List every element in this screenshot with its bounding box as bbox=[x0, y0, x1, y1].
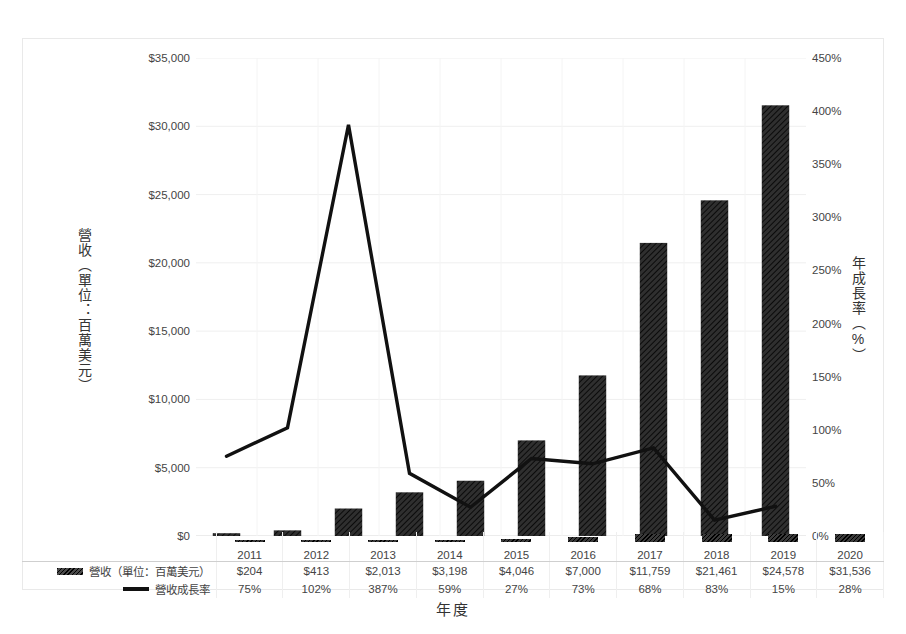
left-axis-ticks: $0$5,000$10,000$15,000$20,000$25,000$30,… bbox=[118, 58, 190, 536]
right-tick-4: 200% bbox=[812, 318, 841, 330]
bar-swatch-icon bbox=[501, 539, 531, 542]
bar-swatch-icon bbox=[435, 540, 465, 542]
bar-2014 bbox=[396, 492, 423, 536]
bar-swatch-icon bbox=[702, 534, 732, 542]
bar-swatch-icon bbox=[57, 568, 83, 575]
table-growth-2015: 27% bbox=[483, 580, 550, 598]
table-swatch-2011 bbox=[216, 532, 283, 544]
table-year-2018: 2018 bbox=[683, 544, 750, 562]
data-table: 2011201220132014201520162017201820192020… bbox=[22, 532, 884, 598]
table-row-swatches bbox=[22, 532, 884, 544]
table-row-revenue: 營收（單位：百萬美元） $204$413$2,013$3,198$4,046$7… bbox=[22, 562, 884, 581]
x-axis-title: 年度 bbox=[0, 598, 906, 619]
table-swatch-2015 bbox=[483, 532, 550, 544]
table-revenue-2012: $413 bbox=[283, 562, 350, 581]
table-revenue-2019: $24,578 bbox=[750, 562, 817, 581]
bar-2020 bbox=[762, 105, 789, 536]
plot-svg bbox=[196, 58, 806, 536]
table-swatch-2013 bbox=[350, 532, 417, 544]
table-year-2012: 2012 bbox=[283, 544, 350, 562]
table-revenue-2016: $7,000 bbox=[550, 562, 617, 581]
bar-swatch-icon bbox=[768, 534, 798, 542]
table-swatch-2016 bbox=[550, 532, 617, 544]
bar-swatch-icon bbox=[568, 537, 598, 542]
legend-revenue-label: 營收（單位：百萬美元） bbox=[89, 566, 210, 578]
line-swatch-icon bbox=[123, 587, 149, 591]
table-year-2016: 2016 bbox=[550, 544, 617, 562]
legend-growth: 營收成長率 bbox=[22, 580, 216, 598]
table-revenue-2011: $204 bbox=[216, 562, 283, 581]
right-tick-8: 400% bbox=[812, 105, 841, 117]
right-tick-9: 450% bbox=[812, 52, 841, 64]
table-swatch-2018 bbox=[683, 532, 750, 544]
bar-2019 bbox=[701, 200, 728, 536]
table-growth-2014: 59% bbox=[416, 580, 483, 598]
left-tick-4: $20,000 bbox=[148, 257, 190, 269]
table-year-2015: 2015 bbox=[483, 544, 550, 562]
left-tick-5: $25,000 bbox=[148, 189, 190, 201]
table-swatch-2014 bbox=[416, 532, 483, 544]
left-tick-7: $35,000 bbox=[148, 52, 190, 64]
left-axis-title: 營收（單位：百萬美元） bbox=[74, 228, 94, 393]
bar-2018 bbox=[640, 243, 667, 536]
bar-swatch-icon bbox=[368, 540, 398, 542]
bar-swatch-icon bbox=[835, 534, 865, 542]
bar-swatch-icon bbox=[635, 534, 665, 542]
table-year-2020: 2020 bbox=[817, 544, 884, 562]
right-axis-ticks: 0%50%100%150%200%250%300%350%400%450% bbox=[812, 58, 882, 536]
table-growth-2012: 102% bbox=[283, 580, 350, 598]
table-growth-2016: 73% bbox=[550, 580, 617, 598]
table-year-2019: 2019 bbox=[750, 544, 817, 562]
table-revenue-2018: $21,461 bbox=[683, 562, 750, 581]
bar-2017 bbox=[579, 375, 606, 536]
left-tick-2: $10,000 bbox=[148, 393, 190, 405]
table-revenue-2014: $3,198 bbox=[416, 562, 483, 581]
table-row-years: 2011201220132014201520162017201820192020 bbox=[22, 544, 884, 562]
table-year-2014: 2014 bbox=[416, 544, 483, 562]
table-row-growth: 營收成長率 75%102%387%59%27%73%68%83%15%28% bbox=[22, 580, 884, 598]
right-tick-6: 300% bbox=[812, 211, 841, 223]
table-revenue-2013: $2,013 bbox=[350, 562, 417, 581]
right-tick-2: 100% bbox=[812, 424, 841, 436]
legend-revenue: 營收（單位：百萬美元） bbox=[22, 562, 216, 581]
table-revenue-2017: $11,759 bbox=[617, 562, 684, 581]
chart-container: 圖 台積電歷年營收與年成長率 營收（單位：百萬美元） 年成長率（%） $0$5,… bbox=[0, 0, 906, 634]
table-growth-2017: 68% bbox=[617, 580, 684, 598]
table-growth-2019: 15% bbox=[750, 580, 817, 598]
table-revenue-2015: $4,046 bbox=[483, 562, 550, 581]
table-growth-2013: 387% bbox=[350, 580, 417, 598]
table-swatch-2017 bbox=[617, 532, 684, 544]
right-tick-7: 350% bbox=[812, 158, 841, 170]
table-year-2017: 2017 bbox=[617, 544, 684, 562]
left-tick-3: $15,000 bbox=[148, 325, 190, 337]
left-tick-6: $30,000 bbox=[148, 120, 190, 132]
right-tick-1: 50% bbox=[812, 477, 835, 489]
swatch-row-spacer bbox=[22, 532, 216, 544]
table-swatch-2019 bbox=[750, 532, 817, 544]
bar-2016 bbox=[518, 440, 545, 536]
table-year-2011: 2011 bbox=[216, 544, 283, 562]
table-growth-2011: 75% bbox=[216, 580, 283, 598]
bar-swatch-icon bbox=[301, 540, 331, 542]
right-tick-5: 250% bbox=[812, 264, 841, 276]
right-tick-3: 150% bbox=[812, 371, 841, 383]
table-revenue-2020: $31,536 bbox=[817, 562, 884, 581]
table-swatch-2012 bbox=[283, 532, 350, 544]
table-growth-2018: 83% bbox=[683, 580, 750, 598]
plot-area bbox=[196, 58, 806, 536]
table-swatch-2020 bbox=[817, 532, 884, 544]
bar-swatch-icon bbox=[235, 540, 265, 542]
left-tick-1: $5,000 bbox=[155, 462, 190, 474]
table-year-2013: 2013 bbox=[350, 544, 417, 562]
year-row-spacer bbox=[22, 544, 216, 562]
table-growth-2020: 28% bbox=[817, 580, 884, 598]
legend-growth-label: 營收成長率 bbox=[155, 584, 210, 596]
